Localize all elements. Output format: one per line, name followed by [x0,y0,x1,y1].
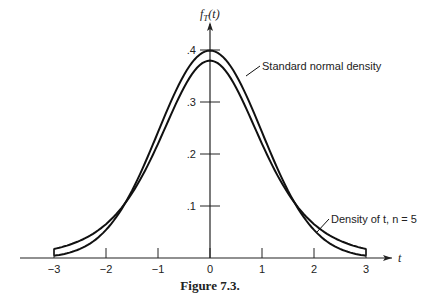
y-tick-label: .1 [187,200,196,212]
leader-line-normal [246,66,260,76]
annotation-t-density: Density of t, n = 5 [331,213,417,225]
x-tick-label: −2 [100,263,113,275]
x-tick-label: 2 [311,263,317,275]
x-tick-label: 0 [207,263,213,275]
x-axis-label: t [398,251,402,265]
y-tick-label: .2 [187,148,196,160]
axes [20,22,392,261]
y-tick-label: .3 [187,96,196,108]
annotation-standard-normal: Standard normal density [262,60,382,72]
x-tick-label: −3 [48,263,61,275]
x-tick-label: −1 [152,263,165,275]
x-tick-label: 1 [259,263,265,275]
y-axis-label: fT(t) [200,7,220,23]
y-tick-label: .4 [187,44,196,56]
density-chart: −3−2−10123.1.2.3.4 fT(t) t Standard norm… [0,0,439,308]
figure-caption: Figure 7.3. [180,278,239,293]
x-tick-label: 3 [363,263,369,275]
